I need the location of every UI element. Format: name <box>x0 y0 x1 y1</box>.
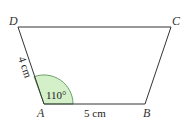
trapezium-diagram: D C A B 5 cm 110° 4 cm <box>0 0 195 121</box>
vertex-label-a: A <box>36 106 45 120</box>
side-label-ab: 5 cm <box>84 107 106 119</box>
angle-label-a: 110° <box>46 89 67 101</box>
side-label-ad: 4 cm <box>16 55 35 80</box>
vertex-label-c: C <box>172 14 181 28</box>
vertex-label-b: B <box>143 106 151 120</box>
vertex-label-d: D <box>8 14 18 28</box>
